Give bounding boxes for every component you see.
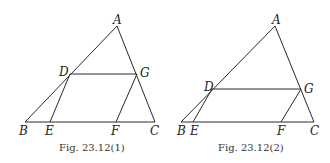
point-label-e: E bbox=[44, 124, 54, 138]
point-label-b: B bbox=[18, 124, 28, 138]
segment-ac bbox=[275, 26, 314, 122]
segment-ab bbox=[181, 26, 275, 122]
point-label-g: G bbox=[304, 82, 314, 96]
point-label-g: G bbox=[140, 66, 150, 80]
point-label-c: C bbox=[150, 124, 159, 138]
point-label-d: D bbox=[203, 80, 214, 94]
segment-gf bbox=[116, 74, 137, 122]
point-label-d: D bbox=[58, 65, 69, 79]
point-label-e: E bbox=[189, 124, 199, 138]
point-label-a: A bbox=[112, 13, 122, 27]
point-label-a: A bbox=[271, 13, 281, 27]
point-label-f: F bbox=[276, 124, 286, 138]
segment-de bbox=[50, 74, 70, 122]
figure-caption: Fig. 23.12(2) bbox=[218, 142, 284, 153]
figure-2: A D G B E F C Fig. 23.12(2) bbox=[176, 13, 319, 153]
geometry-figures: A D G B E F C Fig. 23.12(1) A D G B E F … bbox=[0, 0, 330, 163]
point-label-c: C bbox=[310, 124, 319, 138]
figure-caption: Fig. 23.12(1) bbox=[59, 142, 125, 153]
point-label-b: B bbox=[176, 124, 186, 138]
segment-gf bbox=[281, 89, 301, 122]
figure-1: A D G B E F C Fig. 23.12(1) bbox=[18, 13, 159, 153]
point-label-f: F bbox=[110, 124, 120, 138]
